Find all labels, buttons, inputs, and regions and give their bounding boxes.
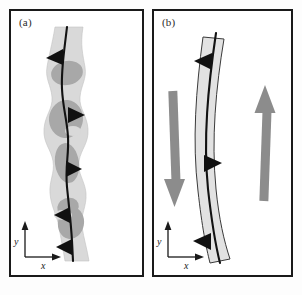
left-shear-arrow — [164, 91, 185, 207]
axis-y-label-b: y — [156, 236, 162, 247]
axis-x-label-b: x — [183, 260, 189, 271]
right-shear-arrow — [255, 85, 276, 201]
panel-b: (b) — [152, 9, 293, 277]
axis-indicator-a: y x — [13, 221, 61, 271]
panel-b-diagram: y x — [154, 11, 291, 275]
shear-marker-b-3 — [193, 233, 211, 250]
axis-y-label-a: y — [13, 236, 19, 247]
panel-a-diagram: y x — [11, 11, 142, 275]
axis-x-label-a: x — [40, 260, 46, 271]
panel-a: (a) — [9, 9, 144, 277]
figure-container: (a) — [0, 0, 302, 295]
axis-indicator-b: y x — [156, 221, 204, 271]
caption-sliver — [0, 283, 302, 295]
